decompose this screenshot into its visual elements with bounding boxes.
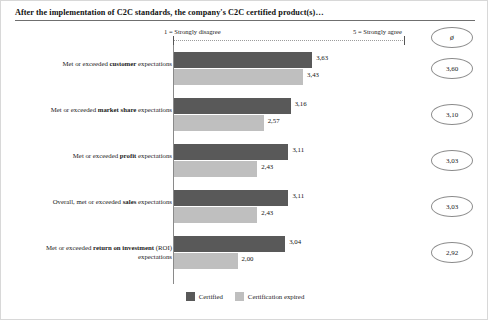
category-label-prefix: Met or exceeded xyxy=(63,60,110,67)
category-label-keyword: return on investment xyxy=(93,244,154,251)
category-label-keyword: profit xyxy=(120,152,137,159)
bar-certification-expired xyxy=(174,161,257,177)
chart-legend: Certified Certification expired xyxy=(1,292,488,301)
bar-group: Met or exceeded profit expectations3,112… xyxy=(1,142,488,188)
average-badge: 2,92 xyxy=(431,242,473,263)
chart-title-block: After the implementation of C2C standard… xyxy=(15,7,475,21)
bar-certified xyxy=(174,52,312,68)
category-label: Overall, met or exceeded sales expectati… xyxy=(12,197,172,206)
scale-max-label: 5 = Strongly agree xyxy=(353,28,402,35)
bar-certified xyxy=(174,144,288,160)
title-divider xyxy=(15,20,475,21)
bar-value-certification-expired: 2,43 xyxy=(261,163,273,170)
category-label: Met or exceeded profit expectations xyxy=(12,151,172,160)
category-label-suffix: expectations xyxy=(136,106,172,113)
legend-item-expired: Certification expired xyxy=(235,292,304,301)
category-label-keyword: sales xyxy=(123,198,137,205)
bar-value-certified: 3,11 xyxy=(292,146,304,153)
bar-value-certified: 3,04 xyxy=(289,238,301,245)
page-title: After the implementation of C2C standard… xyxy=(15,7,475,18)
average-badge: 3,60 xyxy=(431,58,473,79)
bar-certified xyxy=(174,236,285,252)
bar-value-certification-expired: 2,00 xyxy=(242,255,254,262)
scale-axis-line xyxy=(173,40,405,41)
chart-figure: After the implementation of C2C standard… xyxy=(0,0,488,320)
category-label: Met or exceeded return on investment (RO… xyxy=(12,243,172,261)
category-label-keyword: customer xyxy=(110,60,137,67)
bar-value-certification-expired: 2,57 xyxy=(268,117,280,124)
category-label-prefix: Overall, met or exceeded xyxy=(53,198,123,205)
scale-axis-cap-right xyxy=(404,36,405,45)
category-label-suffix: expectations xyxy=(136,198,172,205)
category-label-suffix: expectations xyxy=(136,152,172,159)
bar-certified xyxy=(174,98,291,114)
category-label-prefix: Met or exceeded xyxy=(51,106,98,113)
average-badge: 3,03 xyxy=(431,196,473,217)
scale-min-label: 1 = Strongly disagree xyxy=(164,28,221,35)
bar-value-certification-expired: 2,43 xyxy=(261,209,273,216)
average-badge: 3,10 xyxy=(431,104,473,125)
bar-certification-expired xyxy=(174,69,303,85)
bar-value-certified: 3,63 xyxy=(316,54,328,61)
legend-swatch-certified-icon xyxy=(186,292,195,301)
bar-value-certified: 3,16 xyxy=(295,100,307,107)
plot-area: Met or exceeded customer expectations3,6… xyxy=(1,45,488,285)
category-label-prefix: Met or exceeded xyxy=(73,152,120,159)
bar-group: Met or exceeded customer expectations3,6… xyxy=(1,50,488,96)
bar-value-certification-expired: 3,43 xyxy=(307,71,319,78)
bar-certification-expired xyxy=(174,115,264,131)
legend-swatch-expired-icon xyxy=(235,292,244,301)
legend-item-certified: Certified xyxy=(186,292,223,301)
category-label-suffix: expectations xyxy=(136,60,172,67)
category-label-keyword: market share xyxy=(98,106,137,113)
bar-group: Met or exceeded market share expectation… xyxy=(1,96,488,142)
bar-certification-expired xyxy=(174,207,257,223)
bar-certification-expired xyxy=(174,253,238,269)
legend-label-certified: Certified xyxy=(199,293,223,300)
legend-label-expired: Certification expired xyxy=(248,293,304,300)
bar-group: Overall, met or exceeded sales expectati… xyxy=(1,188,488,234)
bar-certified xyxy=(174,190,288,206)
bar-value-certified: 3,11 xyxy=(292,192,304,199)
category-label: Met or exceeded customer expectations xyxy=(12,59,172,68)
category-label: Met or exceeded market share expectation… xyxy=(12,105,172,114)
category-label-prefix: Met or exceeded xyxy=(46,244,93,251)
scale-axis-cap-left xyxy=(173,36,174,45)
bar-group: Met or exceeded return on investment (RO… xyxy=(1,234,488,280)
average-badge: 3,03 xyxy=(431,150,473,171)
